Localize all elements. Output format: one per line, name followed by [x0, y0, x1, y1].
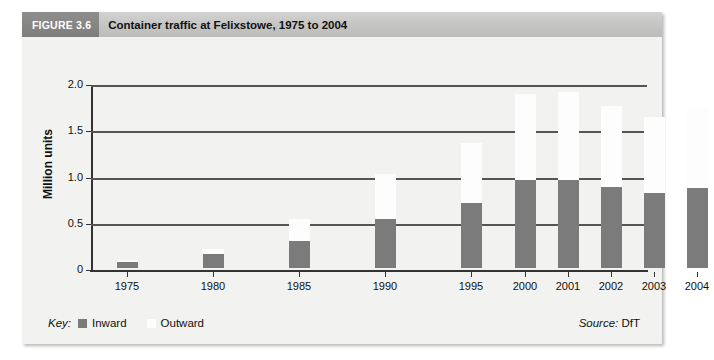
bar-group: [289, 219, 310, 268]
x-axis-tick-mark: [299, 272, 300, 277]
x-axis-tick-label: 1985: [269, 280, 329, 292]
bar-group: [558, 92, 579, 268]
figure-number-label: FIGURE 3.6: [22, 12, 99, 37]
y-axis-tick-label: 2.0: [49, 78, 83, 90]
chart-axes: 1975198019851990199520002001200220032004: [91, 85, 647, 270]
y-axis-tick-label: 1.0: [49, 171, 83, 183]
x-axis-tick-label: 2004: [667, 280, 714, 292]
source-prefix: Source:: [579, 317, 619, 329]
bar-segment-inward: [375, 219, 396, 268]
legend-label-outward: Outward: [161, 317, 204, 329]
x-axis-tick-mark: [213, 272, 214, 277]
figure-title-bar: FIGURE 3.6 Container traffic at Felixsto…: [22, 12, 662, 37]
y-axis-tick-label: 1.5: [49, 124, 83, 136]
gridline: [91, 85, 647, 87]
bar-segment-inward: [515, 180, 536, 268]
x-axis-tick-mark: [525, 272, 526, 277]
bar-segment-inward: [203, 254, 224, 268]
x-axis-tick-label: 1980: [183, 280, 243, 292]
legend-item-inward: Inward: [78, 317, 127, 329]
bar-segment-inward: [558, 180, 579, 268]
x-axis-tick-mark: [697, 272, 698, 277]
legend-label-inward: Inward: [92, 317, 127, 329]
bar-segment-outward: [687, 108, 708, 188]
x-axis-tick-mark: [568, 272, 569, 277]
x-axis-tick-label: 1990: [355, 280, 415, 292]
figure-footer: Key: Inward Outward Source: DfT: [22, 308, 662, 344]
bar-group: [117, 260, 138, 268]
x-axis-tick-label: 1995: [441, 280, 501, 292]
bar-group: [515, 94, 536, 268]
bar-segment-inward: [461, 203, 482, 268]
bar-group: [461, 143, 482, 268]
bar-segment-inward: [117, 262, 138, 268]
figure-title-text: Container traffic at Felixstowe, 1975 to…: [99, 19, 347, 31]
x-axis-tick-mark: [611, 272, 612, 277]
bar-segment-outward: [515, 94, 536, 180]
bar-group: [687, 108, 708, 268]
bar-segment-inward: [644, 193, 665, 268]
legend-swatch-outward: [147, 319, 156, 328]
legend-swatch-inward: [78, 319, 87, 328]
y-axis-tick-label: 0.5: [49, 217, 83, 229]
source-note: Source: DfT: [579, 317, 640, 329]
bar-segment-inward: [289, 241, 310, 268]
bar-group: [644, 117, 665, 268]
bar-segment-outward: [289, 219, 310, 241]
x-axis-tick-mark: [654, 272, 655, 277]
x-axis-tick-mark: [471, 272, 472, 277]
x-axis-line: [90, 270, 648, 272]
y-axis-tick-label: 0: [49, 263, 83, 275]
bar-segment-outward: [644, 117, 665, 193]
y-axis-title: Million units: [41, 104, 55, 224]
x-axis-tick-mark: [127, 272, 128, 277]
bar-segment-outward: [461, 143, 482, 203]
figure-panel: FIGURE 3.6 Container traffic at Felixsto…: [22, 12, 662, 344]
bar-segment-outward: [601, 106, 622, 186]
source-value: DfT: [621, 317, 640, 329]
bar-segment-outward: [375, 174, 396, 219]
chart-plot-region: Million units 00.51.01.52.0 197519801985…: [22, 37, 662, 307]
bar-segment-outward: [558, 92, 579, 180]
chart-legend: Key: Inward Outward: [48, 317, 204, 329]
bar-segment-inward: [601, 187, 622, 268]
legend-item-outward: Outward: [147, 317, 204, 329]
bar-segment-inward: [687, 188, 708, 268]
bar-group: [203, 249, 224, 268]
bar-group: [601, 106, 622, 268]
x-axis-tick-mark: [385, 272, 386, 277]
x-axis-tick-label: 1975: [97, 280, 157, 292]
bar-group: [375, 174, 396, 268]
legend-key-label: Key:: [48, 317, 71, 329]
